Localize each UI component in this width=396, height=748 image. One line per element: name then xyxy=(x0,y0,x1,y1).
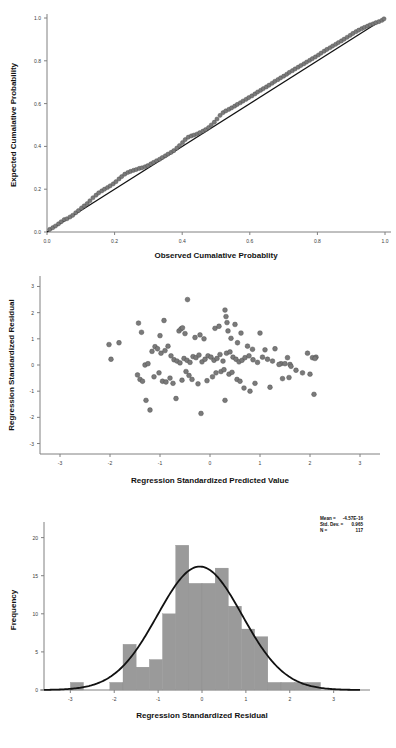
scatter-data-point xyxy=(202,336,207,341)
pp-ytick-label: 0.0 xyxy=(34,229,41,235)
scatter-data-point xyxy=(107,342,112,347)
pp-xtick-label: 0.6 xyxy=(246,238,253,244)
stat-mean-value: -4.57E-16 xyxy=(343,516,364,521)
scatter-data-point xyxy=(283,361,288,366)
scatter-data-point xyxy=(180,325,185,330)
scatter-xtick-label: -2 xyxy=(108,460,113,466)
histogram-bar xyxy=(189,583,202,690)
scatter-xtick-label: -3 xyxy=(58,460,63,466)
scatter-data-point xyxy=(205,378,210,383)
scatter-data-point xyxy=(152,374,157,379)
hist-xtick-label: 3 xyxy=(332,696,335,702)
hist-xtick-label: 1 xyxy=(244,696,247,702)
scatter-data-point xyxy=(217,324,222,329)
scatter-data-point xyxy=(135,373,140,378)
scatter-data-point xyxy=(289,364,294,369)
hist-xtick-label: -3 xyxy=(68,696,73,702)
scatter-data-point xyxy=(239,331,244,336)
scatter-data-point xyxy=(171,381,176,386)
scatter-data-point xyxy=(294,368,299,373)
histogram-bar xyxy=(123,644,136,690)
histogram-bar xyxy=(215,568,228,690)
histogram-bar xyxy=(268,682,281,690)
scatter-data-point xyxy=(251,357,256,362)
histogram-bar xyxy=(136,667,149,690)
histogram-bar xyxy=(149,660,162,690)
scatter-data-point xyxy=(248,389,253,394)
scatter-ytick-label: 3 xyxy=(31,283,34,289)
scatter-data-point xyxy=(197,353,202,358)
scatter-data-point xyxy=(238,379,243,384)
scatter-data-point xyxy=(140,379,145,384)
scatter-data-point xyxy=(265,357,270,362)
scatter-data-point xyxy=(210,374,215,379)
normal-pp-plot-panel: 0.00.20.40.60.81.00.00.20.40.60.81.0Obse… xyxy=(0,0,396,262)
pp-xaxis-title: Observed Cumalative Probablity xyxy=(154,251,278,260)
scatter-data-point xyxy=(180,378,185,383)
hist-yaxis-title: Frequency xyxy=(9,589,18,630)
histogram-bar xyxy=(110,682,123,690)
scatter-data-point xyxy=(158,333,163,338)
scatter-data-point xyxy=(270,359,275,364)
scatter-data-point xyxy=(155,346,160,351)
pp-yaxis-title: Expected Cumalative Probability xyxy=(9,62,18,187)
scatter-data-point xyxy=(198,333,203,338)
residual-histogram-panel: 05101520-3-2-10123Regression Standardize… xyxy=(0,500,396,748)
scatter-data-point xyxy=(166,344,171,349)
histogram-bar xyxy=(176,545,189,690)
scatter-data-point xyxy=(196,381,201,386)
scatter-data-point xyxy=(185,297,190,302)
pp-xtick-label: 0.2 xyxy=(111,238,118,244)
scatter-data-point xyxy=(193,335,198,340)
pp-xtick-label: 0.0 xyxy=(44,238,51,244)
pp-ytick-label: 0.6 xyxy=(34,101,41,107)
pp-xtick-label: 0.4 xyxy=(179,238,186,244)
scatter-data-point xyxy=(263,347,268,352)
scatter-data-point xyxy=(223,398,228,403)
scatter-data-point xyxy=(139,330,144,335)
scatter-data-point xyxy=(162,318,167,323)
pp-data-point xyxy=(215,117,219,121)
scatter-data-point xyxy=(157,370,162,375)
scatter-data-point xyxy=(190,377,195,382)
scatter-data-point xyxy=(148,408,153,413)
histogram-bar xyxy=(281,682,294,690)
scatter-data-point xyxy=(230,370,235,375)
pp-xtick-label: 1.0 xyxy=(382,238,389,244)
scatter-data-point xyxy=(308,372,313,377)
histogram-bar xyxy=(163,614,176,690)
hist-xtick-label: 2 xyxy=(288,696,291,702)
scatter-data-point xyxy=(253,381,258,386)
stat-n-value: 117 xyxy=(356,528,364,533)
scatter-ytick-label: 0 xyxy=(31,362,34,368)
histogram-bar xyxy=(242,629,255,690)
scatter-xtick-label: 3 xyxy=(359,460,362,466)
scatter-data-point xyxy=(247,353,252,358)
scatter-data-point xyxy=(199,411,204,416)
scatter-data-point xyxy=(250,347,255,352)
hist-xtick-label: 0 xyxy=(201,696,204,702)
pp-ytick-label: 0.8 xyxy=(34,58,41,64)
scatter-data-point xyxy=(277,362,282,367)
scatter-data-point xyxy=(305,351,310,356)
scatter-data-point xyxy=(163,348,168,353)
scatter-data-point xyxy=(285,355,290,360)
scatter-ytick-label: 2 xyxy=(31,310,34,316)
scatter-data-point xyxy=(268,385,273,390)
scatter-data-point xyxy=(117,340,122,345)
stat-stddev-label: Std. Dev. = xyxy=(320,522,344,527)
scatter-data-point xyxy=(164,380,169,385)
hist-xaxis-title: Regression Standardized Residual xyxy=(136,711,268,720)
scatter-data-point xyxy=(287,375,292,380)
scatter-data-point xyxy=(218,352,223,357)
scatter-data-point xyxy=(183,331,188,336)
scatter-data-point xyxy=(221,359,226,364)
histogram-bar xyxy=(228,606,241,690)
scatter-data-point xyxy=(228,350,233,355)
scatter-data-point xyxy=(136,321,141,326)
pp-ytick-label: 0.4 xyxy=(34,143,41,149)
scatter-data-point xyxy=(109,357,114,362)
scatter-data-point xyxy=(300,370,305,375)
hist-ytick-label: 15 xyxy=(32,573,38,579)
histogram-svg: 05101520-3-2-10123Regression Standardize… xyxy=(0,500,396,748)
